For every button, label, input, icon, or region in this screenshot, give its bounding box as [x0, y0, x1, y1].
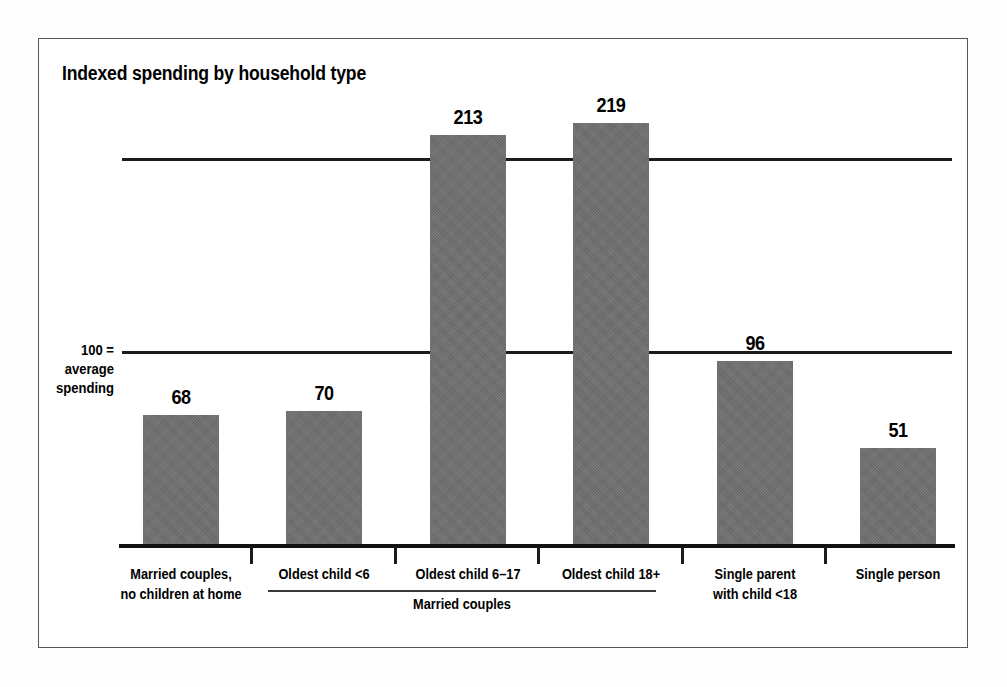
- y-axis-caption-line-3: spending: [53, 379, 114, 398]
- x-axis-tick: [250, 547, 253, 564]
- bar-value-label: 96: [712, 331, 798, 355]
- bar-value-label: 213: [425, 105, 511, 129]
- x-axis-label-oldest-child-18-plus: Oldest child 18+: [549, 564, 672, 584]
- x-axis-label-line-1: Single parent: [693, 564, 816, 584]
- bar-value-label: 70: [281, 381, 367, 405]
- x-axis-tick: [681, 547, 684, 564]
- bar-single-person[interactable]: [860, 448, 936, 546]
- plot-area: 100 = average spending 68 70 213 219 96 …: [0, 0, 1007, 687]
- x-axis-tick: [537, 547, 540, 564]
- x-axis-label-line-1: Oldest child 18+: [549, 564, 672, 584]
- bar-value-label: 51: [855, 418, 941, 442]
- x-axis-label-line-1: Single person: [836, 564, 959, 584]
- bar-value-label: 219: [568, 93, 654, 117]
- bar-single-parent-with-child[interactable]: [717, 361, 793, 546]
- bar-oldest-child-6-17[interactable]: [430, 135, 506, 546]
- x-axis-label-line-1: Oldest child 6–17: [406, 564, 529, 584]
- x-axis-label-line-2: with child <18: [693, 584, 816, 604]
- x-axis-tick: [394, 547, 397, 564]
- x-axis-label-line-1: Married couples,: [119, 564, 242, 584]
- group-bracket-label: Married couples: [291, 596, 632, 612]
- bar-married-couples-no-children[interactable]: [143, 415, 219, 546]
- x-axis-label-married-couples-no-children: Married couples, no children at home: [119, 564, 242, 604]
- bar-oldest-child-18-plus[interactable]: [573, 123, 649, 546]
- group-bracket-line: [268, 590, 656, 592]
- figure-canvas: Indexed spending by household type 100 =…: [0, 0, 1007, 687]
- x-axis-label-line-2: no children at home: [119, 584, 242, 604]
- y-axis-caption-line-1: 100 =: [53, 341, 114, 360]
- y-axis-caption: 100 = average spending: [53, 341, 114, 398]
- y-axis-caption-line-2: average: [53, 360, 114, 379]
- gridline-200: [122, 158, 952, 161]
- x-axis-label-oldest-child-under-6: Oldest child <6: [262, 564, 385, 584]
- bar-oldest-child-under-6[interactable]: [286, 411, 362, 546]
- x-axis-label-line-1: Oldest child <6: [262, 564, 385, 584]
- x-axis-label-single-person: Single person: [836, 564, 959, 584]
- bar-value-label: 68: [138, 385, 224, 409]
- gridline-100: [122, 351, 952, 354]
- x-axis-tick: [824, 547, 827, 564]
- x-axis-label-oldest-child-6-17: Oldest child 6–17: [406, 564, 529, 584]
- x-axis-label-single-parent-with-child: Single parent with child <18: [693, 564, 816, 604]
